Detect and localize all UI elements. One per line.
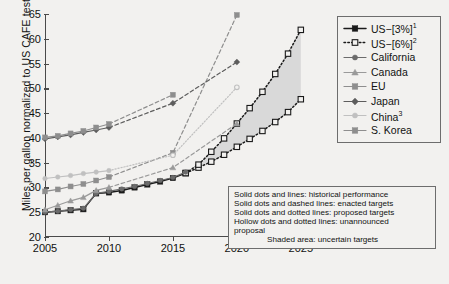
note-line: Shaded area: uncertain targets — [234, 235, 431, 244]
y-tick-label: 30 — [29, 181, 41, 193]
data-point — [209, 159, 214, 164]
legend-label: EU — [371, 81, 386, 92]
series-s-korea — [43, 92, 176, 140]
data-point — [55, 133, 60, 138]
data-point — [171, 175, 176, 180]
y-tick-label: 25 — [29, 206, 41, 218]
data-point — [260, 89, 265, 94]
legend-symbol — [342, 95, 368, 108]
data-point — [260, 128, 265, 133]
data-point — [94, 125, 99, 130]
data-point — [285, 51, 290, 56]
notes-box: Solid dots and lines: historical perform… — [228, 186, 436, 249]
legend-label: US−[3%]1 — [371, 22, 417, 34]
legend-item-china[interactable]: China3 — [342, 109, 435, 124]
chart-figure: Miles per gallon normalized to US CAFE t… — [0, 0, 449, 284]
data-point — [170, 92, 175, 97]
data-point — [298, 97, 303, 102]
data-point — [352, 128, 358, 134]
legend-symbol — [342, 36, 368, 49]
data-point — [81, 206, 86, 211]
series-line — [45, 124, 109, 137]
data-point — [221, 152, 226, 157]
data-point — [171, 153, 176, 158]
legend-item-california[interactable]: California — [342, 50, 435, 65]
data-point — [68, 184, 73, 189]
series-eu — [43, 13, 240, 194]
note-line: Hollow dots and dotted lines: unannounce… — [234, 217, 431, 226]
note-line: proposal — [234, 226, 431, 235]
data-point — [196, 162, 201, 167]
legend-symbol — [342, 51, 368, 64]
data-point — [68, 173, 73, 178]
data-point — [234, 13, 239, 18]
data-point — [94, 170, 99, 175]
data-point — [247, 136, 252, 141]
legend-item-us-3[interactable]: US−[3%]1 — [342, 21, 435, 36]
y-tick-label: 55 — [29, 58, 41, 70]
data-point — [158, 178, 163, 183]
legend-label: Canada — [371, 67, 408, 78]
legend-item-us-6[interactable]: US−[6%]2 — [342, 36, 435, 51]
data-point — [106, 122, 111, 127]
data-point — [273, 119, 278, 124]
legend-label: China3 — [371, 110, 402, 122]
data-point — [273, 71, 278, 76]
legend-symbol — [342, 80, 368, 93]
legend-symbol — [342, 124, 368, 137]
data-point — [352, 25, 358, 31]
chart-legend: US−[3%]1US−[6%]2CaliforniaCanadaEUJapanC… — [337, 16, 441, 143]
data-point — [119, 187, 124, 192]
data-point — [106, 175, 111, 180]
data-point — [81, 128, 86, 133]
legend-label: California — [371, 52, 415, 63]
series-line — [109, 95, 173, 124]
data-point — [234, 144, 239, 149]
series-line — [45, 128, 109, 139]
data-point — [80, 194, 86, 199]
note-line: Solid dots and dashed lines: enacted tar… — [234, 199, 431, 208]
data-point — [170, 165, 176, 170]
data-point — [352, 40, 358, 46]
legend-item-eu[interactable]: EU — [342, 79, 435, 94]
data-point — [132, 184, 137, 189]
legend-item-japan[interactable]: Japan — [342, 94, 435, 109]
y-tick-label: 60 — [29, 33, 41, 45]
data-point — [43, 176, 48, 181]
series-japan — [42, 59, 240, 142]
legend-footnote-marker: 1 — [413, 22, 417, 29]
data-point — [235, 85, 240, 90]
data-point — [43, 135, 48, 140]
data-point — [55, 187, 60, 192]
data-point — [352, 113, 357, 118]
series-line — [109, 155, 173, 170]
y-tick-label: 65 — [29, 8, 41, 20]
legend-label: Japan — [371, 96, 400, 107]
data-point — [107, 168, 112, 173]
legend-footnote-marker: 3 — [398, 110, 402, 117]
data-point — [247, 105, 252, 110]
legend-symbol — [342, 22, 368, 35]
series-line — [45, 187, 109, 209]
y-tick-label: 50 — [29, 82, 41, 94]
data-point — [81, 181, 86, 186]
y-tick-label: 45 — [29, 107, 41, 119]
data-point — [352, 55, 357, 60]
data-point — [68, 207, 73, 212]
legend-symbol — [342, 109, 368, 122]
y-tick-label: 40 — [29, 132, 41, 144]
data-point — [209, 149, 214, 154]
legend-item-s-korea[interactable]: S. Korea — [342, 123, 435, 138]
legend-footnote-marker: 2 — [413, 37, 417, 44]
data-point — [55, 175, 60, 180]
legend-symbol — [342, 66, 368, 79]
legend-item-canada[interactable]: Canada — [342, 65, 435, 80]
data-point — [81, 171, 86, 176]
data-point — [298, 27, 303, 32]
data-point — [94, 178, 99, 183]
legend-label: US−[6%]2 — [371, 37, 417, 49]
y-tick-label: 35 — [29, 157, 41, 169]
legend-label: S. Korea — [371, 125, 412, 136]
x-tick-label: 2005 — [33, 242, 57, 254]
series-line — [45, 171, 109, 179]
